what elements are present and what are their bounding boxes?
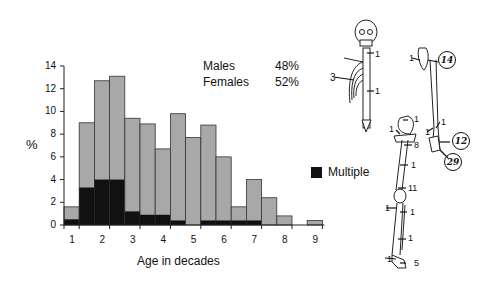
- bar-total: [186, 138, 201, 225]
- females-label: Females: [203, 75, 249, 89]
- x-tick-label: 3: [126, 234, 140, 245]
- bar-multiple: [64, 219, 79, 225]
- bar-total: [246, 180, 261, 225]
- label-wrist-circle: 12: [452, 132, 470, 150]
- bar-multiple: [110, 180, 125, 225]
- label-neck: 1: [375, 49, 380, 59]
- y-tick-label: 12: [40, 83, 56, 94]
- bar-multiple: [155, 215, 170, 225]
- y-tick-label: 8: [40, 128, 56, 139]
- label-spine: 1: [375, 86, 380, 96]
- males-pct: 48%: [275, 59, 299, 73]
- x-tick-label: 8: [278, 234, 292, 245]
- x-tick-label: 2: [95, 234, 109, 245]
- bar-total: [140, 124, 155, 225]
- y-tick-label: 4: [40, 174, 56, 185]
- bar-total: [125, 118, 140, 225]
- bar-multiple: [125, 211, 140, 225]
- label-ribs: 3: [330, 72, 336, 83]
- x-tick-label: 6: [217, 234, 231, 245]
- x-tick-label: 4: [156, 234, 170, 245]
- label-ankle: 1: [387, 254, 392, 264]
- bar-multiple: [201, 220, 216, 225]
- label-scapula: 1: [409, 53, 414, 63]
- bar-total: [155, 149, 170, 225]
- label-hip: 1: [389, 124, 394, 134]
- bar-multiple: [79, 188, 94, 225]
- label-hand-circle: 29: [444, 153, 462, 171]
- bar-multiple: [170, 220, 185, 225]
- label-pelvis: 1: [414, 114, 419, 124]
- label-elbow-b: 1: [425, 127, 430, 137]
- x-tick-label: 1: [65, 234, 79, 245]
- y-tick-label: 14: [40, 60, 56, 71]
- males-label: Males: [203, 59, 235, 73]
- label-femur-mid: 1: [411, 160, 416, 170]
- bar-multiple: [216, 220, 231, 225]
- label-femur-top: 8: [414, 140, 419, 150]
- females-pct: 52%: [275, 75, 299, 89]
- bar-multiple: [94, 180, 109, 225]
- y-tick-label: 0: [40, 219, 56, 230]
- bar-total: [201, 125, 216, 225]
- bar-total: [262, 198, 277, 225]
- y-tick-label: 2: [40, 196, 56, 207]
- label-humerus-circle: 14: [438, 51, 456, 69]
- skull-icon: [355, 20, 377, 46]
- label-elbow-a: 1: [441, 117, 446, 127]
- x-axis-label: Age in decades: [137, 254, 220, 268]
- bar-total: [170, 114, 185, 225]
- x-tick-label: 5: [187, 234, 201, 245]
- bar-multiple: [246, 220, 261, 225]
- bar-multiple: [231, 220, 246, 225]
- y-tick-label: 6: [40, 151, 56, 162]
- label-foot: 5: [414, 258, 419, 268]
- label-knee: 11: [408, 183, 417, 193]
- bar-total: [216, 157, 231, 225]
- label-tibia-b: 1: [410, 207, 415, 217]
- label-tibia-c: 1: [408, 233, 413, 243]
- bar-multiple: [140, 215, 155, 225]
- x-tick-label: 7: [247, 234, 261, 245]
- y-tick-label: 10: [40, 105, 56, 116]
- spine-icon: [362, 48, 371, 132]
- y-axis-label: %: [26, 137, 38, 152]
- bar-total: [277, 216, 292, 225]
- label-tibia-a: 1: [385, 203, 390, 213]
